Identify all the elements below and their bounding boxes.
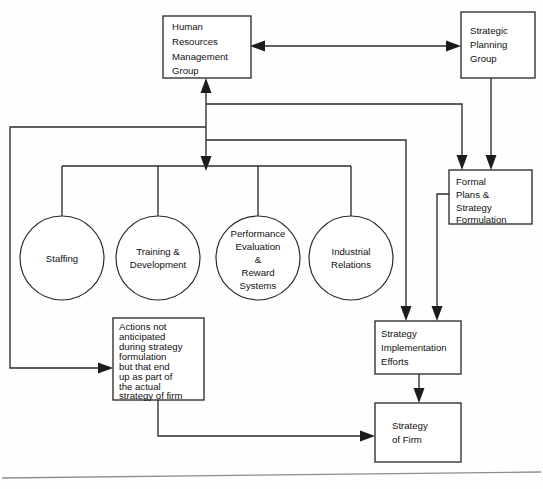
diagram-canvas: Human Resources Management Group Strateg…	[0, 0, 543, 489]
node-strategy-implementation[interactable]: Strategy Implementation Efforts	[375, 321, 461, 374]
connector-hrm-trunk	[201, 78, 212, 171]
strategy-firm-line-1: Strategy	[392, 420, 428, 431]
arrow-head-into-strategy-of-firm	[360, 431, 375, 442]
actions-line-8: strategy of firm	[119, 390, 182, 401]
performance-line-2: Evaluation	[236, 241, 281, 252]
connector-hr-functions-bar	[62, 166, 351, 216]
node-staffing[interactable]: Staffing	[20, 216, 104, 300]
training-line-1: Training &	[136, 246, 180, 257]
connector-formal-plans-feedback-to-hrm	[206, 104, 468, 170]
arrow-head-left	[250, 41, 265, 52]
arrow-head-up-to-hrm	[201, 78, 212, 93]
node-performance-evaluation[interactable]: Performance Evaluation & Reward Systems	[216, 216, 300, 300]
industrial-line-1: Industrial	[332, 246, 371, 257]
node-industrial-relations[interactable]: Industrial Relations	[309, 216, 393, 300]
implementation-line-1: Strategy	[381, 328, 417, 339]
arrow-head-down	[486, 155, 497, 170]
node-hrm-group[interactable]: Human Resources Management Group	[163, 16, 251, 78]
arrow-head-into-formal-plans	[457, 155, 468, 170]
node-strategy-of-firm[interactable]: Strategy of Firm	[375, 403, 461, 462]
hrm-group-line-3: Management	[172, 51, 228, 62]
node-unanticipated-actions[interactable]: Actions not anticipated during strategy …	[113, 318, 204, 401]
connector-implementation-to-strategy-of-firm	[414, 374, 425, 403]
performance-line-5: Systems	[240, 280, 277, 291]
formal-plans-line-4: Formulation	[456, 214, 507, 225]
implementation-line-3: Efforts	[381, 356, 409, 367]
hrm-group-line-4: Group	[172, 65, 199, 76]
arrow-head-down-formal-plans	[432, 306, 443, 321]
arrow-head-right	[446, 41, 461, 52]
training-line-2: Development	[130, 259, 187, 270]
formal-plans-line-2: Plans &	[456, 189, 490, 200]
connector-formal-plans-to-implementation	[432, 194, 450, 321]
node-training-development[interactable]: Training & Development	[116, 216, 200, 300]
spg-line-1: Strategic	[470, 25, 508, 36]
performance-line-1: Performance	[231, 228, 286, 239]
arrow-head-into-actions	[98, 363, 113, 374]
performance-line-4: Reward	[241, 267, 274, 278]
page-bottom-rule	[2, 472, 541, 478]
arrow-head-down-strategy	[414, 388, 425, 403]
hrm-group-line-1: Human	[172, 21, 203, 32]
formal-plans-line-1: Formal	[456, 176, 486, 187]
connector-actions-to-strategy-of-firm	[158, 400, 375, 442]
flowchart-svg: Human Resources Management Group Strateg…	[0, 0, 543, 489]
strategy-of-firm-box[interactable]	[375, 403, 461, 462]
connector-hrm-to-strategic-planning	[250, 41, 461, 52]
arrow-head-down-to-functions	[201, 156, 212, 171]
hrm-group-line-2: Resources	[172, 36, 218, 47]
performance-line-3: &	[255, 254, 262, 265]
implementation-line-2: Implementation	[381, 342, 447, 353]
strategy-firm-line-2: of Firm	[392, 434, 422, 445]
arrow-head-down-to-implementation	[401, 306, 412, 321]
staffing-line-1: Staffing	[46, 253, 78, 264]
node-formal-plans[interactable]: Formal Plans & Strategy Formulation	[449, 170, 532, 225]
spg-line-2: Planning	[470, 39, 507, 50]
node-strategic-planning-group[interactable]: Strategic Planning Group	[461, 12, 535, 78]
spg-line-3: Group	[470, 53, 497, 64]
connector-spg-to-formal-plans	[486, 78, 497, 170]
industrial-line-2: Relations	[331, 259, 371, 270]
formal-plans-line-3: Strategy	[456, 202, 492, 213]
